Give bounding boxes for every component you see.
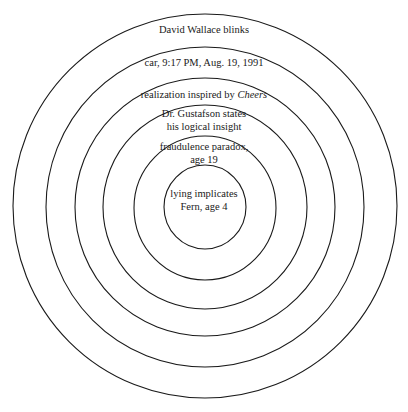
ring-6-label-line1: lying implicates	[104, 187, 304, 200]
ring-2-label: car, 9:17 PM, Aug. 19, 1991	[104, 56, 304, 69]
ring-4-label-line2: his logical insight	[104, 120, 304, 133]
ring-6-label-line2: Fern, age 4	[104, 200, 304, 213]
ring-1-label: David Wallace blinks	[104, 23, 304, 36]
ring-3-label-italic: Cheers	[237, 89, 267, 100]
ring-3-label: realization inspired by Cheers	[104, 88, 304, 101]
ring-4-label-line1: Dr. Gustafson states	[104, 107, 304, 120]
ring-5-label-line2: age 19	[104, 153, 304, 166]
ring-6-label: lying implicates Fern, age 4	[104, 187, 304, 213]
ring-5-label-line1: fraudulence paradox,	[104, 140, 304, 153]
ring-3-label-text: realization inspired by	[141, 89, 238, 100]
ring-5-label: fraudulence paradox, age 19	[104, 140, 304, 166]
ring-4-label: Dr. Gustafson states his logical insight	[104, 107, 304, 133]
